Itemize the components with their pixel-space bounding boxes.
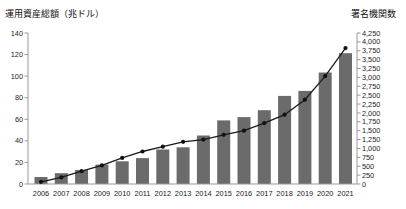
right-tick-label: 2,250 bbox=[362, 100, 380, 109]
year-label: 2018 bbox=[276, 189, 292, 198]
year-label: 2011 bbox=[135, 189, 151, 198]
right-tick-label: 250 bbox=[362, 171, 374, 180]
bar bbox=[177, 147, 190, 184]
right-axis-title: 署名機関数 bbox=[351, 8, 396, 19]
line-marker bbox=[262, 121, 266, 125]
year-label: 2013 bbox=[175, 189, 191, 198]
line-marker bbox=[39, 180, 43, 184]
bar bbox=[116, 161, 129, 184]
left-tick-label: 60 bbox=[15, 115, 23, 124]
line-marker bbox=[161, 145, 165, 149]
left-tick-label: 100 bbox=[11, 72, 23, 81]
bar bbox=[136, 158, 149, 184]
right-tick-label: 2,750 bbox=[362, 82, 380, 91]
bar bbox=[339, 53, 352, 184]
line-marker bbox=[181, 140, 185, 144]
line-marker bbox=[242, 129, 246, 133]
year-label: 2010 bbox=[114, 189, 130, 198]
right-tick-label: 2,000 bbox=[362, 109, 380, 118]
left-tick-label: 0 bbox=[19, 180, 23, 189]
year-label: 2012 bbox=[155, 189, 171, 198]
right-tick-label: 1,500 bbox=[362, 126, 380, 135]
bar bbox=[217, 120, 230, 184]
year-label: 2019 bbox=[297, 189, 313, 198]
year-label: 2021 bbox=[337, 189, 353, 198]
line-marker bbox=[59, 175, 63, 179]
right-tick-label: 500 bbox=[362, 162, 374, 171]
right-tick-label: 4,250 bbox=[362, 29, 380, 38]
left-tick-label: 40 bbox=[15, 136, 23, 145]
year-label: 2020 bbox=[317, 189, 333, 198]
right-tick-label: 3,000 bbox=[362, 73, 380, 82]
right-tick-label: 750 bbox=[362, 153, 374, 162]
right-tick-label: 3,750 bbox=[362, 46, 380, 55]
right-tick-label: 1,250 bbox=[362, 135, 380, 144]
year-label: 2017 bbox=[256, 189, 272, 198]
line-marker bbox=[343, 46, 347, 50]
bar bbox=[319, 73, 332, 185]
left-tick-label: 20 bbox=[15, 158, 23, 167]
bar bbox=[197, 136, 210, 185]
bars-group bbox=[35, 53, 353, 184]
left-axis-title: 運用資産総額（兆ドル） bbox=[5, 8, 104, 19]
bar bbox=[278, 96, 291, 184]
right-tick-label: 1,000 bbox=[362, 144, 380, 153]
right-tick-label: 3,250 bbox=[362, 64, 380, 73]
year-label: 2006 bbox=[33, 189, 49, 198]
right-tick-label: 0 bbox=[362, 180, 366, 189]
right-tick-label: 3,500 bbox=[362, 55, 380, 64]
line-marker bbox=[80, 169, 84, 173]
bar bbox=[238, 117, 251, 184]
bar bbox=[95, 165, 108, 184]
line-marker bbox=[140, 149, 144, 153]
line-marker bbox=[120, 156, 124, 160]
left-tick-label: 80 bbox=[15, 93, 23, 102]
bar bbox=[298, 91, 311, 184]
year-label: 2016 bbox=[236, 189, 252, 198]
year-label: 2009 bbox=[94, 189, 110, 198]
line-marker bbox=[201, 138, 205, 142]
year-label: 2015 bbox=[215, 189, 231, 198]
year-label: 2008 bbox=[73, 189, 89, 198]
right-tick-label: 4,000 bbox=[362, 37, 380, 46]
right-tick-label: 2,500 bbox=[362, 91, 380, 100]
chart-figure: 運用資産総額（兆ドル） 署名機関数 0204060801001201400250… bbox=[0, 0, 406, 209]
line-marker bbox=[323, 74, 327, 78]
bar bbox=[156, 150, 169, 185]
line-marker bbox=[222, 133, 226, 137]
chart: 運用資産総額（兆ドル） 署名機関数 0204060801001201400250… bbox=[0, 0, 406, 209]
left-tick-label: 120 bbox=[11, 50, 23, 59]
line-marker bbox=[283, 113, 287, 117]
line-marker bbox=[100, 163, 104, 167]
year-label: 2007 bbox=[53, 189, 69, 198]
right-tick-label: 1,750 bbox=[362, 117, 380, 126]
left-tick-label: 140 bbox=[11, 29, 23, 38]
line-marker bbox=[303, 98, 307, 102]
year-label: 2014 bbox=[195, 189, 211, 198]
